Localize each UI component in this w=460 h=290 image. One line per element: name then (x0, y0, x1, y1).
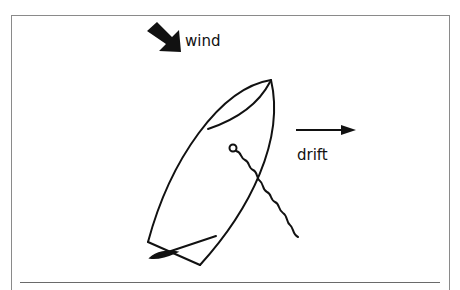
rudder-blade (150, 251, 177, 258)
boat-drift-diagram (0, 0, 460, 290)
wind-label: wind (185, 34, 220, 49)
deck-line (208, 82, 270, 129)
wind-arrow-icon (147, 22, 181, 52)
wavy-line (230, 145, 299, 238)
drift-arrow-icon (296, 125, 356, 135)
drift-label: drift (297, 148, 328, 163)
